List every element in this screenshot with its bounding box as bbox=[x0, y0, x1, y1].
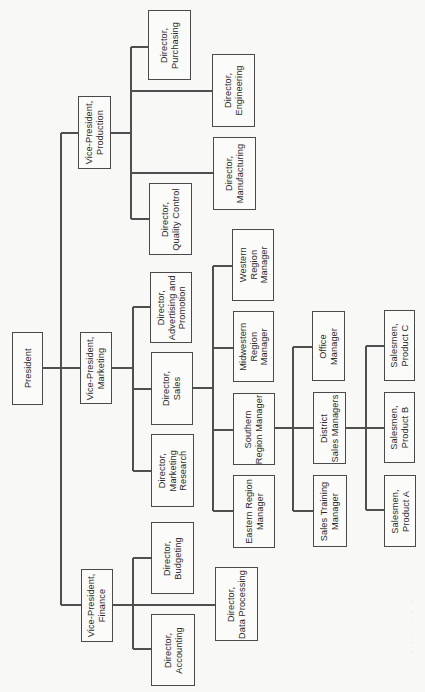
node-salesmen-product-c: Salesmen, Product C bbox=[384, 310, 415, 381]
node-western-region-manager: Western Region Manager bbox=[232, 229, 274, 301]
node-label: Vice-President, Production bbox=[84, 101, 105, 165]
node-label: District Sales Managers bbox=[319, 394, 340, 462]
node-label: Office Manager bbox=[318, 328, 339, 365]
node-director-marketing-research: Director, Marketing Research bbox=[151, 434, 194, 507]
node-label: Eastern Region Manager bbox=[244, 479, 265, 544]
node-label: Director, Purchasing bbox=[159, 22, 180, 69]
node-label: Director, Data Processing bbox=[226, 570, 247, 639]
node-president: President bbox=[12, 332, 43, 405]
node-director-advertising-promotion: Director, Advertising and Promotion bbox=[150, 272, 192, 343]
node-office-manager: Office Manager bbox=[312, 311, 345, 381]
node-director-engineering: Director, Engineering bbox=[212, 54, 255, 127]
node-district-sales-managers: District Sales Managers bbox=[313, 392, 346, 464]
node-label: Vice-President, Marketing bbox=[86, 336, 107, 400]
node-label: Director, Engineering bbox=[223, 65, 244, 115]
node-label: Midwestern Region Manager bbox=[238, 323, 270, 371]
node-label: Western Region Manager bbox=[237, 247, 269, 284]
node-label: Director, Sales bbox=[161, 371, 182, 406]
node-vp-production: Vice-President, Production bbox=[78, 96, 111, 169]
node-eastern-region-manager: Eastern Region Manager bbox=[233, 475, 275, 548]
caption-text: · · · · · · bbox=[409, 597, 416, 654]
node-label: Sales Training Manager bbox=[320, 481, 341, 541]
node-label: President bbox=[22, 349, 33, 389]
node-director-quality-control: Director, Quality Control bbox=[149, 183, 192, 255]
node-label: Director, Marketing Research bbox=[157, 450, 189, 491]
node-director-sales: Director, Sales bbox=[151, 352, 193, 425]
node-label: Director, Quality Control bbox=[160, 188, 181, 250]
org-chart: President Vice-President, Production Vic… bbox=[0, 0, 425, 692]
node-label: Vice-President, Finance bbox=[87, 574, 108, 638]
node-director-manufacturing: Director, Manufacturing bbox=[213, 137, 256, 210]
node-label: Director, Accounting bbox=[163, 627, 184, 673]
node-label: Salesmen, Product C bbox=[389, 323, 410, 367]
figure-caption: · · · · · · bbox=[404, 560, 420, 690]
node-label: Southern Region Manager bbox=[244, 394, 265, 463]
node-director-budgeting: Director, Budgeting bbox=[151, 522, 194, 594]
node-label: Director, Manufacturing bbox=[224, 144, 245, 204]
node-salesmen-product-b: Salesmen, Product B bbox=[384, 392, 415, 463]
node-southern-region-manager: Southern Region Manager bbox=[233, 393, 275, 465]
node-label: Director, Advertising and Promotion bbox=[155, 275, 187, 340]
node-label: Salesmen, Product A bbox=[390, 489, 411, 533]
node-midwestern-region-manager: Midwestern Region Manager bbox=[233, 311, 274, 382]
node-label: Salesmen, Product B bbox=[389, 405, 410, 449]
node-director-data-processing: Director, Data Processing bbox=[215, 567, 258, 641]
node-director-accounting: Director, Accounting bbox=[151, 614, 195, 686]
node-salesmen-product-a: Salesmen, Product A bbox=[384, 475, 416, 547]
node-vp-marketing: Vice-President, Marketing bbox=[80, 332, 112, 404]
node-director-purchasing: Director, Purchasing bbox=[148, 10, 191, 80]
node-label: Director, Budgeting bbox=[162, 537, 183, 579]
node-sales-training-manager: Sales Training Manager bbox=[313, 475, 347, 547]
node-vp-finance: Vice-President, Finance bbox=[81, 569, 113, 642]
